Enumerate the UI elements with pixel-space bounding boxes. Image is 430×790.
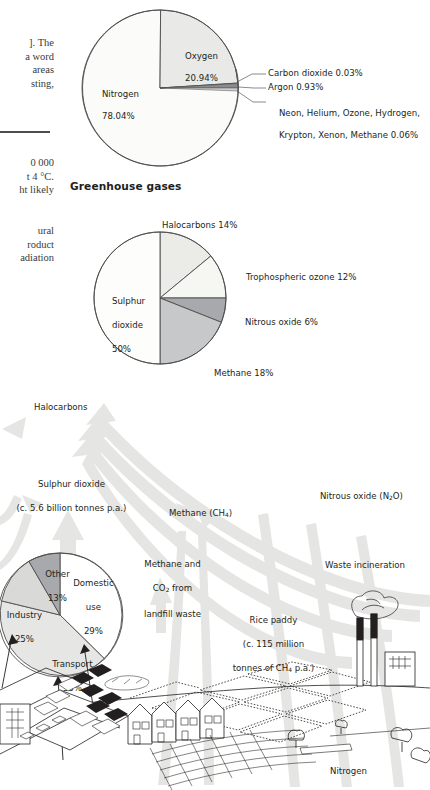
trees [288, 720, 430, 763]
hedge-line [330, 728, 430, 736]
chimney-1-cap [357, 618, 363, 640]
industrial-estate [0, 664, 128, 754]
chimney-2-cap [371, 614, 377, 638]
landscape-illustration [0, 540, 430, 790]
landfill-heap [105, 676, 149, 690]
page-canvas: ]. The a word areas sting, 0 000 t 4 °C.… [0, 0, 430, 790]
field-strip [300, 744, 352, 754]
terraced-houses [128, 698, 224, 744]
incinerator-building [385, 652, 415, 686]
